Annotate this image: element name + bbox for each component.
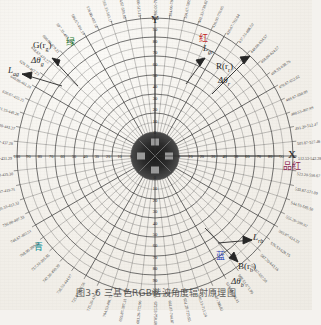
radial-scale-number: 50 [234,154,238,159]
radial-scale-number: 90 [153,27,158,32]
arc-lgr-sub: gr [208,49,213,55]
arc-label-lgr: Lgr [203,44,213,55]
radial-scale-number: 50 [153,232,158,237]
radial-scale-number: 100 [14,154,20,159]
radial-scale-number: 40 [153,84,158,89]
radial-scale-number: 30 [153,209,158,214]
arc-lrb-sub: rb [258,238,263,244]
radial-scale-number: 80 [268,154,272,159]
delta-red-sym: Δθ [218,75,228,85]
radial-scale-number: 40 [223,154,227,159]
radial-scale-number: 70 [153,255,158,260]
color-label-magenta: 品红 [283,162,301,171]
radial-scale-number: 30 [95,154,99,159]
vector-red-head [240,56,250,64]
radial-scale-number: 10 [153,186,158,191]
radial-scale-number: 50 [72,154,76,159]
radial-scale-number: 70 [153,50,158,55]
radial-scale-number: 70 [257,154,261,159]
vector-red-fn-end: ) [230,61,233,71]
radial-scale-number: 20 [153,107,158,112]
radial-scale-number: 30 [211,154,215,159]
arc-label-lrb: Lrb [253,233,263,244]
radial-scale-number: 70 [49,154,53,159]
radial-scale-number: 50 [153,73,158,78]
delta-green-sub: g [41,61,44,67]
radial-scale-number: 60 [153,243,158,248]
figure-caption: 图3-6 三基色RGB谐波角度辐射原理图 [0,286,312,299]
radial-scale-number: 90 [153,278,158,283]
angle-range-label: 380.00-760.00 [153,0,158,16]
vector-red-fn: R(r [216,61,228,71]
radial-scale-number: 80 [153,266,158,271]
radial-scale-number: 90 [280,154,284,159]
y-axis-label: Y [151,14,159,25]
radial-scale-number: 60 [61,154,65,159]
radial-scale-number: 0 [130,154,132,159]
radial-scale-number: 20 [200,154,204,159]
radial-scale-number: 10 [118,154,122,159]
vector-label-red: R(rr) [216,62,233,73]
delta-red-sub: r [228,81,230,87]
radial-scale-number: 40 [83,154,87,159]
axis-lines [155,30,280,156]
delta-theta-red: Δθr [218,76,230,87]
radial-scale-number: 80 [153,39,158,44]
radial-scale-number: 10 [188,154,192,159]
radial-scale-number: 30 [153,96,158,101]
radial-scale-number: 20 [153,198,158,203]
angle-range-label: 512.53-542.28 [298,156,321,161]
color-label-blue: 蓝 [216,252,225,261]
radial-scale-number: 80 [38,154,42,159]
radial-scale-number: 20 [106,154,110,159]
x-axis-label: X [288,149,296,160]
radial-scale-number: 0 [178,154,180,159]
radial-scale-number: 60 [153,62,158,67]
color-label-red: 红 [199,34,208,43]
radial-scale-number: 40 [153,221,158,226]
angle-range-label: 672.53-758.48 [153,302,158,325]
radial-scale-number: 90 [26,154,30,159]
radial-scale-number: 10 [153,119,158,124]
arc-arrow-lrb-head [243,236,252,244]
vector-green-head [52,58,60,66]
radial-scale-number: 60 [245,154,249,159]
angle-range-label: 683.20-772.90 [135,300,142,324]
arc-arrow-lag-head [22,72,32,79]
angle-range-label: 693.33-431.29 [0,156,12,161]
arc-arrow-lgr-head [196,58,205,66]
